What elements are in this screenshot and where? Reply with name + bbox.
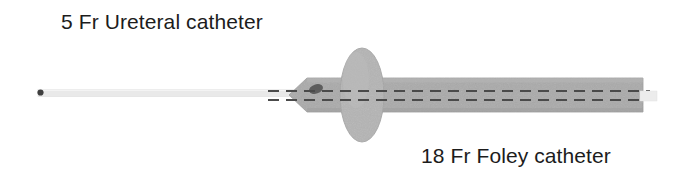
ureteral-catheter-label: 5 Fr Ureteral catheter [61,11,263,33]
ureteral-catheter-tip-marker [37,89,43,95]
foley-catheter-label: 18 Fr Foley catheter [421,145,611,167]
ureteral-catheter-distal-exit [640,91,657,101]
distal-exit-segment [640,91,657,101]
ureteral-catheter [37,89,300,96]
ureteral-catheter-highlight [38,90,300,91]
retention-balloon [340,48,384,142]
catheter-figure: 5 Fr Ureteral catheter 18 Fr Foley cathe… [0,0,676,175]
